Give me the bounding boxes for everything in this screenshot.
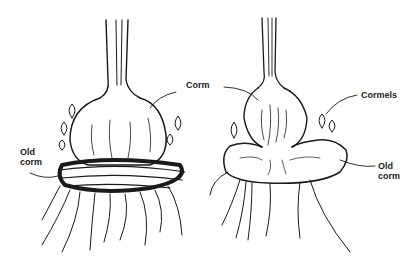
label-old-corm-left-line2: corm [20,157,42,167]
label-cormels: Cormels [361,90,397,100]
label-old-corm-right-line1: Old [378,161,400,171]
left-plant-illustration [42,20,185,252]
label-corm: Corm [186,80,210,90]
label-old-corm-right: Old corm [378,161,400,181]
cormels-leader [326,95,357,114]
old-corm-left-leader [30,173,58,177]
line-drawing [0,0,420,263]
label-cormels-text: Cormels [361,90,397,100]
label-old-corm-left-line1: Old [20,147,42,157]
label-old-corm-right-line2: corm [378,171,400,181]
corm-diagram: Old corm Corm Cormels Old corm [0,0,420,263]
right-plant-illustration [210,18,350,252]
label-old-corm-left: Old corm [20,147,42,167]
label-corm-text: Corm [186,80,210,90]
